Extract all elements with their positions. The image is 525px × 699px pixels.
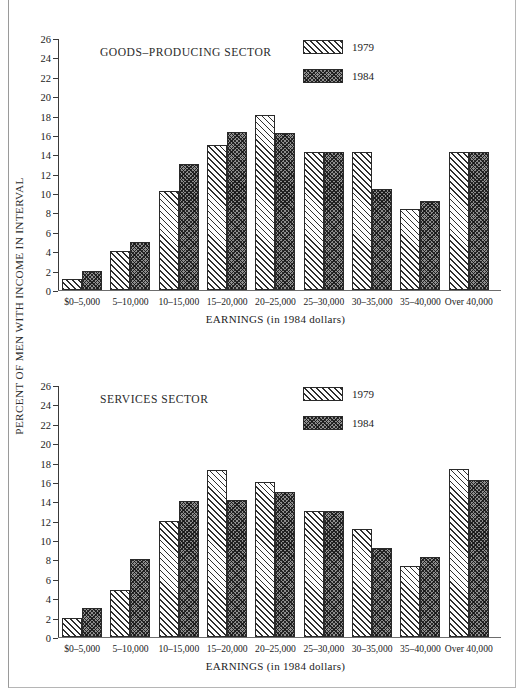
bar-group xyxy=(445,39,493,290)
x-tick-label: 25–30,000 xyxy=(300,296,348,307)
bar-1979 xyxy=(62,618,82,637)
y-tick-label: 4 xyxy=(46,247,51,258)
x-axis-line xyxy=(58,290,501,291)
bar-1984 xyxy=(179,164,199,290)
y-tick-label: 2 xyxy=(46,266,51,277)
bar-group xyxy=(155,386,203,637)
bar-1984 xyxy=(179,501,199,637)
y-tick-label: 24 xyxy=(41,53,52,64)
bar-1984 xyxy=(275,133,295,290)
y-tick-label: 16 xyxy=(41,130,52,141)
x-axis-tick-labels-goods: $0–5,0005–10,00010–15,00015–20,00020–25,… xyxy=(58,296,493,307)
x-tick-label: Over 40,000 xyxy=(445,643,493,654)
bar-1979 xyxy=(159,191,179,290)
bar-group xyxy=(58,386,106,637)
bar-1984 xyxy=(82,608,102,637)
bar-1979 xyxy=(449,152,469,290)
x-tick-label: 5–10,000 xyxy=(106,643,154,654)
y-tick-label: 14 xyxy=(41,150,52,161)
bar-1979 xyxy=(449,469,469,637)
x-tick-label: $0–5,000 xyxy=(58,643,106,654)
bar-group xyxy=(203,386,251,637)
y-tick-label: 8 xyxy=(46,555,51,566)
bar-1979 xyxy=(255,115,275,290)
y-tick-label: 18 xyxy=(41,458,52,469)
bar-1984 xyxy=(420,557,440,637)
y-tick-label: 20 xyxy=(41,92,52,103)
y-tick-label: 22 xyxy=(41,419,52,430)
bar-group xyxy=(348,386,396,637)
x-tick-label: Over 40,000 xyxy=(445,296,493,307)
bar-1984 xyxy=(82,271,102,290)
y-tick-mark xyxy=(53,638,58,639)
bar-group xyxy=(348,39,396,290)
bar-1979 xyxy=(304,152,324,290)
bar-1979 xyxy=(207,145,227,290)
x-tick-label: 15–20,000 xyxy=(203,296,251,307)
bar-1984 xyxy=(227,500,247,637)
bar-group xyxy=(396,386,444,637)
y-tick-label: 24 xyxy=(41,400,52,411)
chart-panel-goods-producing: GOODS–PRODUCING SECTOR 1979 1984 0246810… xyxy=(0,8,525,348)
bar-group xyxy=(106,39,154,290)
bar-1984 xyxy=(372,189,392,290)
bar-1984 xyxy=(469,480,489,637)
bar-1984 xyxy=(420,201,440,290)
y-tick-label: 10 xyxy=(41,536,52,547)
bar-1979 xyxy=(400,209,420,290)
y-tick-mark xyxy=(53,291,58,292)
x-tick-label: 35–40,000 xyxy=(396,296,444,307)
y-tick-label: 20 xyxy=(41,439,52,450)
bar-group xyxy=(203,39,251,290)
x-axis-title-services: EARNINGS (in 1984 dollars) xyxy=(58,660,493,672)
bar-group xyxy=(396,39,444,290)
plot-area-services: 02468101214161820222426 xyxy=(58,386,493,638)
y-tick-label: 0 xyxy=(46,633,51,644)
y-tick-label: 16 xyxy=(41,477,52,488)
y-tick-label: 10 xyxy=(41,189,52,200)
x-tick-label: 30–35,000 xyxy=(348,643,396,654)
bar-1979 xyxy=(62,279,82,290)
y-tick-label: 8 xyxy=(46,208,51,219)
y-tick-label: 0 xyxy=(46,286,51,297)
bar-group xyxy=(106,386,154,637)
bar-1984 xyxy=(324,152,344,290)
x-tick-label: 20–25,000 xyxy=(251,643,299,654)
bar-1984 xyxy=(275,492,295,637)
x-tick-label: 30–35,000 xyxy=(348,296,396,307)
bar-group xyxy=(300,386,348,637)
x-tick-label: $0–5,000 xyxy=(58,296,106,307)
bar-group xyxy=(155,39,203,290)
y-tick-label: 6 xyxy=(46,227,51,238)
bar-1984 xyxy=(130,559,150,637)
bar-1984 xyxy=(227,132,247,290)
bar-1979 xyxy=(304,511,324,637)
x-tick-label: 10–15,000 xyxy=(155,296,203,307)
x-tick-label: 15–20,000 xyxy=(203,643,251,654)
bar-1979 xyxy=(159,521,179,637)
bar-1979 xyxy=(255,482,275,637)
bar-1979 xyxy=(110,590,130,637)
bar-1979 xyxy=(207,470,227,637)
x-tick-label: 25–30,000 xyxy=(300,643,348,654)
bar-groups xyxy=(58,386,493,637)
plot-area-goods: 02468101214161820222426 xyxy=(58,39,493,291)
y-tick-label: 12 xyxy=(41,169,52,180)
x-tick-label: 10–15,000 xyxy=(155,643,203,654)
bar-1979 xyxy=(400,566,420,637)
y-tick-label: 12 xyxy=(41,516,52,527)
bar-1984 xyxy=(469,152,489,290)
x-tick-label: 5–10,000 xyxy=(106,296,154,307)
bar-1984 xyxy=(324,511,344,637)
x-axis-line xyxy=(58,637,501,638)
bar-1984 xyxy=(130,242,150,290)
y-tick-label: 22 xyxy=(41,72,52,83)
bar-1984 xyxy=(372,548,392,637)
bar-group xyxy=(300,39,348,290)
y-tick-label: 14 xyxy=(41,497,52,508)
y-tick-label: 18 xyxy=(41,111,52,122)
x-axis-title-goods: EARNINGS (in 1984 dollars) xyxy=(58,313,493,325)
x-tick-label: 35–40,000 xyxy=(396,643,444,654)
bar-1979 xyxy=(352,529,372,637)
y-tick-label: 26 xyxy=(41,34,52,45)
